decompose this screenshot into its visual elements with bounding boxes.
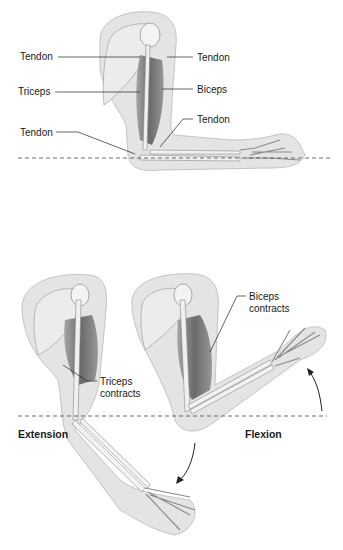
flexion-arm-figure xyxy=(132,274,326,431)
label-flexion: Flexion xyxy=(245,429,282,440)
flexion-arrowhead xyxy=(307,368,314,376)
label-extension: Extension xyxy=(18,429,68,440)
label-triceps-contracts-2: contracts xyxy=(100,388,141,399)
label-triceps-contracts-1: Triceps xyxy=(100,376,132,387)
label-tendon-lower-right: Tendon xyxy=(197,114,230,125)
extension-arrow xyxy=(180,443,195,480)
arm-muscle-diagram xyxy=(0,0,343,550)
label-tendon-upper-left: Tendon xyxy=(20,51,53,62)
label-triceps: Triceps xyxy=(18,86,50,97)
label-tendon-upper-right: Tendon xyxy=(197,52,230,63)
top-arm-figure xyxy=(18,12,333,171)
label-biceps-contracts-1: Biceps xyxy=(249,291,279,302)
label-biceps-contracts-2: contracts xyxy=(249,303,290,314)
label-tendon-lower-left: Tendon xyxy=(20,127,53,138)
label-biceps: Biceps xyxy=(197,84,227,95)
flexion-arrow xyxy=(310,372,322,411)
